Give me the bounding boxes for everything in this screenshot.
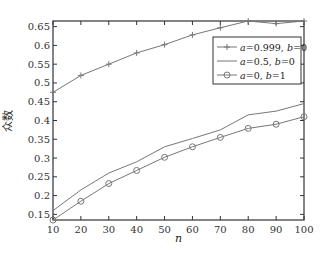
- y-tick-label: 0.35: [28, 134, 50, 145]
- x-tick-label: 90: [270, 224, 283, 235]
- y-tick-label: 0.25: [28, 171, 50, 182]
- legend-item-label: a=0, b=1: [240, 70, 286, 81]
- y-tick-label: 0.2: [34, 190, 50, 201]
- x-tick-label: 100: [294, 224, 313, 235]
- x-tick-label: 50: [158, 224, 171, 235]
- x-tick-label: 10: [47, 224, 60, 235]
- y-tick-label: 0.4: [34, 115, 50, 126]
- legend: a=0.999, b=0a=0.5, b=0a=0, b=1: [213, 37, 307, 84]
- y-tick-label: 0.15: [28, 209, 50, 220]
- x-tick-label: 40: [130, 224, 143, 235]
- x-tick-label: 30: [102, 224, 115, 235]
- y-tick-label: 0.3: [34, 153, 50, 164]
- x-tick-label: 80: [242, 224, 255, 235]
- x-tick-label: 20: [75, 224, 88, 235]
- series-2: [50, 114, 307, 223]
- y-axis-label: 众数: [2, 110, 15, 132]
- chart: 1020304050607080901000.150.20.250.30.350…: [0, 0, 326, 255]
- legend-item-label: a=0.5, b=0: [240, 56, 295, 67]
- y-tick-label: 0.55: [28, 59, 50, 70]
- legend-item-label: a=0.999, b=0: [240, 42, 307, 53]
- x-axis-label: n: [175, 232, 182, 245]
- y-tick-label: 0.45: [28, 96, 50, 107]
- y-tick-label: 0.65: [28, 21, 50, 32]
- y-tick-label: 0.5: [34, 77, 50, 88]
- x-tick-label: 60: [186, 224, 199, 235]
- x-tick-label: 70: [214, 224, 227, 235]
- y-tick-label: 0.6: [34, 40, 50, 51]
